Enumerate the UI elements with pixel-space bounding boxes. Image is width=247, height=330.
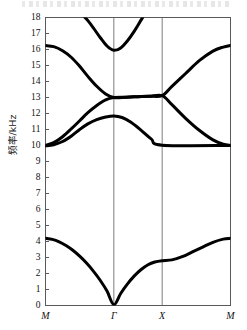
y-tick-label-1: 1	[19, 284, 41, 294]
band-curve-band-2	[46, 116, 231, 146]
band-curve-band-4	[46, 46, 231, 98]
y-tick-label-7: 7	[19, 188, 41, 198]
y-tick-label-8: 8	[19, 172, 41, 182]
y-tick-label-12: 12	[19, 108, 41, 118]
y-tick-label-3: 3	[19, 252, 41, 262]
y-tick-label-15: 15	[19, 60, 41, 70]
y-tick-label-13: 13	[19, 92, 41, 102]
y-tick-label-10: 10	[19, 140, 41, 150]
x-tick-label-1-Γ: Γ	[102, 310, 126, 321]
y-tick-marks	[46, 18, 50, 306]
y-tick-label-9: 9	[19, 156, 41, 166]
y-tick-label-0: 0	[19, 300, 41, 310]
y-tick-label-17: 17	[19, 28, 41, 38]
band-curve-band-1-acoustic	[46, 238, 231, 304]
y-tick-label-2: 2	[19, 268, 41, 278]
x-tick-label-2-X: X	[150, 310, 174, 321]
y-tick-label-14: 14	[19, 76, 41, 86]
band-curves-group	[46, 9, 231, 305]
y-tick-label-16: 16	[19, 44, 41, 54]
band-structure-figure: 频率/kHz 0123456789101112131415161718 MΓXM	[0, 0, 247, 330]
y-tick-label-11: 11	[19, 124, 41, 134]
x-tick-label-3-M: M	[219, 310, 243, 321]
bands-clip-group	[46, 9, 231, 305]
band-curve-band-5-upper	[73, 9, 148, 51]
x-tick-label-0-M: M	[34, 310, 58, 321]
band-curve-band-3	[46, 95, 231, 145]
y-tick-label-6: 6	[19, 204, 41, 214]
y-tick-label-18: 18	[19, 12, 41, 22]
y-tick-label-5: 5	[19, 220, 41, 230]
y-tick-label-4: 4	[19, 236, 41, 246]
